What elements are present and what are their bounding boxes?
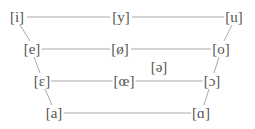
front-edge-3 — [45, 89, 52, 105]
front-edge-2 — [34, 57, 40, 73]
back-edge-2 — [214, 57, 219, 73]
vowel-e: [e] — [23, 41, 42, 57]
vowel-script-a: [ɑ] — [191, 105, 211, 121]
vowel-u: [u] — [224, 9, 244, 25]
vowel-schwa: [ə] — [150, 59, 169, 75]
front-edge-1 — [20, 25, 30, 41]
vowel-o-slash: [ø] — [110, 41, 130, 57]
vowel-y: [y] — [111, 9, 131, 25]
vowel-o: [o] — [211, 41, 231, 57]
back-edge-1 — [224, 25, 232, 41]
vowel-open-o: [ɔ] — [203, 73, 222, 89]
vowel-i: [i] — [9, 9, 25, 25]
vowel-a: [a] — [45, 105, 64, 121]
vowel-chart: [i] [y] [u] [e] [ø] [o] [ə] [ɛ] [œ] [ɔ] … — [0, 0, 255, 129]
vowel-open-e: [ɛ] — [33, 73, 51, 89]
back-edge-3 — [204, 89, 209, 105]
vowel-oe: [œ] — [113, 73, 136, 89]
